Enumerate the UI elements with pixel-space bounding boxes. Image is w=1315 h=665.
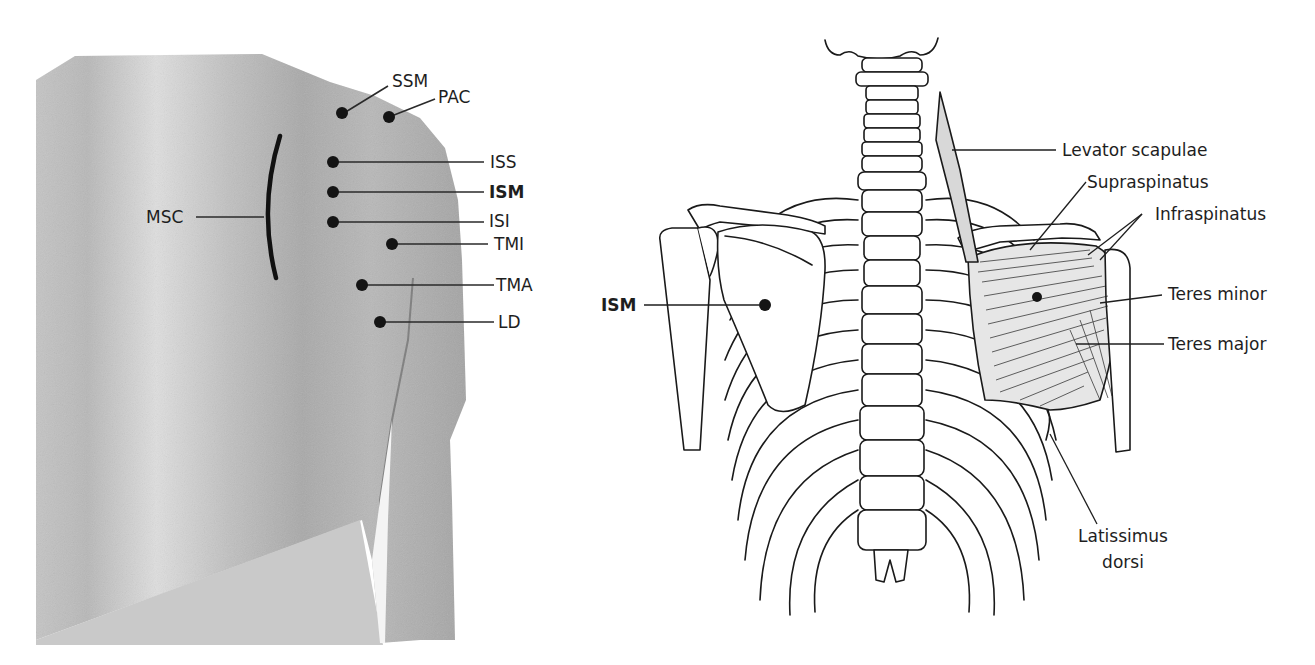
label-teres-minor: Teres minor	[1168, 285, 1267, 303]
label-tmi: TMI	[494, 235, 524, 253]
label-latissimus-line1: Latissimus	[1078, 527, 1168, 545]
label-latissimus-line2: dorsi	[1078, 553, 1168, 571]
point-ism	[327, 186, 339, 198]
point-pac	[383, 111, 395, 123]
point-isi	[327, 216, 339, 228]
label-teres-major: Teres major	[1168, 335, 1266, 353]
label-ism: ISM	[489, 183, 525, 201]
label-ism-skeletal: ISM	[601, 296, 637, 314]
torso-silhouette	[0, 0, 600, 665]
infraspinatus-marker	[1032, 292, 1042, 302]
point-ssm	[336, 107, 348, 119]
skeleton-illustration	[600, 0, 1315, 665]
label-isi: ISI	[489, 212, 510, 230]
point-tmi	[386, 238, 398, 250]
label-latissimus-dorsi: Latissimus dorsi	[1078, 527, 1168, 571]
skeletal-anatomy-panel: ISM Levator scapulae Supraspinatus Infra…	[600, 0, 1315, 665]
point-ld	[374, 316, 386, 328]
point-ism-skeletal	[759, 299, 771, 311]
point-tma	[356, 279, 368, 291]
label-supraspinatus: Supraspinatus	[1087, 173, 1209, 191]
label-iss: ISS	[490, 153, 517, 171]
surface-anatomy-panel: MSC SSM PAC ISS ISM ISI TMI TMA LD	[0, 0, 600, 665]
label-infraspinatus: Infraspinatus	[1155, 205, 1266, 223]
label-msc: MSC	[146, 208, 183, 226]
label-tma: TMA	[496, 276, 533, 294]
label-pac: PAC	[438, 88, 470, 106]
label-levator-scapulae: Levator scapulae	[1062, 141, 1207, 159]
label-ssm: SSM	[392, 72, 428, 90]
point-iss	[327, 156, 339, 168]
label-ld: LD	[498, 313, 521, 331]
